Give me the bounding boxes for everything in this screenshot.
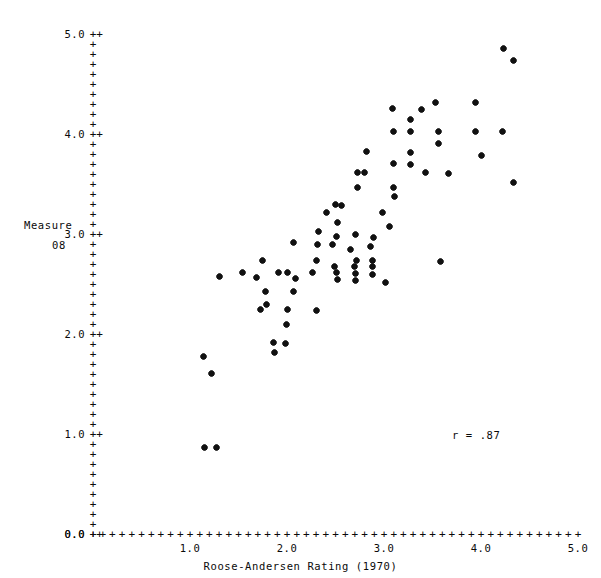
data-point xyxy=(314,258,319,263)
y-axis-title: Measure xyxy=(24,219,72,232)
data-point xyxy=(500,129,505,134)
data-point xyxy=(315,242,320,247)
data-point xyxy=(339,203,344,208)
data-point xyxy=(291,240,296,245)
data-point xyxy=(408,129,413,134)
data-point xyxy=(293,276,298,281)
data-point xyxy=(362,170,367,175)
data-point xyxy=(446,171,451,176)
data-point xyxy=(473,100,478,105)
data-point xyxy=(364,149,369,154)
data-point xyxy=(276,270,281,275)
data-point xyxy=(201,354,206,359)
data-point xyxy=(324,210,329,215)
data-point xyxy=(383,280,388,285)
data-point xyxy=(334,270,339,275)
data-point xyxy=(271,340,276,345)
data-point xyxy=(353,232,358,237)
data-point xyxy=(408,150,413,155)
data-point xyxy=(240,270,245,275)
data-point xyxy=(310,270,315,275)
data-point xyxy=(202,445,207,450)
data-point xyxy=(285,270,290,275)
data-point xyxy=(436,141,441,146)
data-point xyxy=(284,322,289,327)
data-point xyxy=(423,170,428,175)
data-point xyxy=(433,100,438,105)
data-point xyxy=(209,371,214,376)
data-point xyxy=(408,162,413,167)
data-point xyxy=(419,107,424,112)
data-point xyxy=(387,224,392,229)
data-point xyxy=(254,275,259,280)
data-point xyxy=(355,185,360,190)
data-point xyxy=(391,161,396,166)
data-point xyxy=(370,272,375,277)
data-point xyxy=(214,445,219,450)
data-point xyxy=(314,308,319,313)
data-point xyxy=(291,289,296,294)
data-point xyxy=(333,202,338,207)
data-point xyxy=(316,229,321,234)
data-point xyxy=(391,185,396,190)
data-point xyxy=(479,153,484,158)
data-point xyxy=(335,277,340,282)
data-points-layer xyxy=(0,0,601,578)
data-point xyxy=(285,307,290,312)
data-point xyxy=(408,117,413,122)
data-point xyxy=(263,289,268,294)
data-point xyxy=(438,259,443,264)
data-point xyxy=(355,170,360,175)
data-point xyxy=(258,307,263,312)
data-point xyxy=(392,194,397,199)
data-point xyxy=(501,46,506,51)
data-point xyxy=(334,234,339,239)
data-point xyxy=(390,106,395,111)
data-point xyxy=(371,235,376,240)
data-point xyxy=(353,271,358,276)
data-point xyxy=(260,258,265,263)
data-point xyxy=(380,210,385,215)
data-point xyxy=(272,350,277,355)
data-point xyxy=(391,129,396,134)
y-axis-title-subline: 08 xyxy=(52,239,66,252)
scatter-plot-figure: ++++++++++++++++++++++++++++++++++++++++… xyxy=(0,0,601,578)
data-point xyxy=(352,264,357,269)
data-point xyxy=(353,278,358,283)
data-point xyxy=(348,247,353,252)
data-point xyxy=(436,129,441,134)
data-point xyxy=(354,258,359,263)
data-point xyxy=(330,242,335,247)
data-point xyxy=(332,264,337,269)
data-point xyxy=(368,244,373,249)
data-point xyxy=(370,258,375,263)
data-point xyxy=(264,302,269,307)
data-point xyxy=(511,180,516,185)
data-point xyxy=(283,341,288,346)
x-axis-title: Roose-Andersen Rating (1970) xyxy=(204,560,398,573)
data-point xyxy=(335,220,340,225)
data-point xyxy=(473,129,478,134)
data-point xyxy=(511,58,516,63)
data-point xyxy=(370,264,375,269)
correlation-annotation: r = .87 xyxy=(452,429,500,441)
data-point xyxy=(217,274,222,279)
